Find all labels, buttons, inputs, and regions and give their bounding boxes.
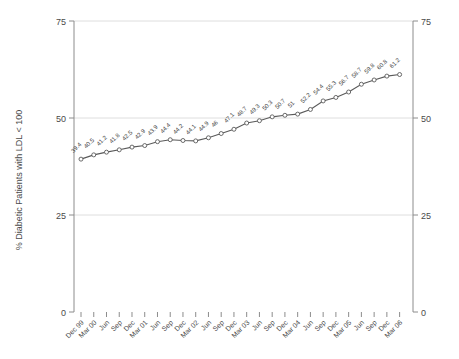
x-axis-tick-labels: Dec 99Mar 00JunSepDecMar 01JunSepDecMar … [64,318,403,339]
data-point-label-11: 46 [210,119,219,128]
x-tick-label-7: Sep [160,319,175,334]
data-point-25[interactable] [398,73,402,77]
data-point-label-12: 47.1 [223,111,236,124]
data-point-label-5: 42.9 [134,127,147,140]
x-tick-label-15: Sep [262,319,277,334]
data-point-14[interactable] [257,119,261,123]
data-point-24[interactable] [385,74,389,78]
data-point-label-16: 50.7 [274,97,287,110]
data-point-9[interactable] [194,139,198,143]
x-tick-label-14: Jun [250,319,263,332]
y-axis-right: 0255075 [413,17,431,318]
data-point-10[interactable] [206,136,210,140]
x-tick-label-11: Sep [211,319,226,334]
y-tick-label-right-0: 0 [421,308,426,318]
y-tick-label-right-1: 25 [421,211,431,221]
data-point-label-8: 44.2 [172,122,185,135]
y-axis-title: % Diabetic Patients with LDL < 100 [14,110,24,251]
data-point-label-0: 39.4 [70,141,83,154]
data-point-6[interactable] [155,140,159,144]
data-point-15[interactable] [270,115,274,119]
data-point-13[interactable] [245,121,249,125]
x-tick-label-3: Sep [109,319,124,334]
x-tick-label-6: Jun [148,319,161,332]
y-tick-label-right-2: 50 [421,114,431,124]
x-tick-label-22: Jun [352,319,365,332]
x-tick-label-10: Jun [199,319,212,332]
data-point-label-21: 56.7 [338,74,351,87]
x-tick-label-19: Sep [313,319,328,334]
gridlines [74,21,413,215]
data-point-2[interactable] [104,150,108,154]
y-tick-label-left-3: 75 [56,17,66,27]
chart-container: 0255075 0255075 Dec 99Mar 00JunSepDecMar… [0,0,459,359]
data-point-21[interactable] [347,90,351,94]
plot-axes [74,21,413,312]
data-point-20[interactable] [334,95,338,99]
data-point-label-25: 61.2 [389,56,402,69]
data-point-label-18: 52.2 [299,91,312,104]
data-point-label-23: 59.8 [363,62,376,75]
data-point-label-14: 49.3 [248,102,261,115]
data-point-label-15: 50.3 [261,99,274,112]
data-point-label-10: 44.9 [197,120,210,133]
data-point-23[interactable] [372,78,376,82]
data-point-4[interactable] [130,145,134,149]
data-point-label-1: 40.5 [83,137,96,150]
data-point-1[interactable] [92,153,96,157]
data-point-16[interactable] [283,113,287,117]
data-point-label-24: 60.8 [376,58,389,71]
data-point-label-13: 48.7 [236,105,249,118]
data-point-19[interactable] [321,99,325,103]
data-point-labels: 39.440.541.241.842.542.943.944.444.244.1… [70,56,402,154]
data-point-label-17: 51 [287,99,296,108]
x-axis [81,312,400,317]
data-point-7[interactable] [168,138,172,142]
data-point-17[interactable] [296,112,300,116]
data-point-8[interactable] [181,139,185,143]
data-point-label-19: 54.4 [312,83,325,96]
x-tick-label-23: Sep [364,319,379,334]
x-tick-label-18: Jun [301,319,314,332]
data-point-0[interactable] [79,157,83,161]
y-tick-label-right-3: 75 [421,17,431,27]
data-point-11[interactable] [219,132,223,136]
data-point-22[interactable] [359,82,363,86]
y-tick-label-left-1: 25 [56,211,66,221]
data-point-label-20: 55.3 [325,79,338,92]
line-chart: 0255075 0255075 Dec 99Mar 00JunSepDecMar… [0,0,459,359]
data-point-18[interactable] [308,107,312,111]
data-point-label-3: 41.8 [108,132,121,145]
data-point-label-2: 41.2 [95,134,108,147]
data-point-label-9: 44.1 [185,123,198,136]
data-point-label-4: 42.5 [121,129,134,142]
y-tick-label-left-0: 0 [61,308,66,318]
data-point-3[interactable] [117,148,121,152]
x-tick-label-2: Jun [97,319,110,332]
data-point-5[interactable] [143,144,147,148]
data-point-12[interactable] [232,127,236,131]
y-axis-left: 0255075 [56,17,74,318]
data-point-label-7: 44.4 [159,121,172,134]
y-tick-label-left-2: 50 [56,114,66,124]
data-point-label-6: 43.9 [146,123,159,136]
data-point-label-22: 58.7 [350,66,363,79]
